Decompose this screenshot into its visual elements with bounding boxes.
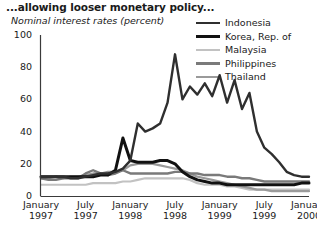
chart-figure: ...allowing looser monetary policy... No… [0, 0, 317, 239]
plot-area [0, 0, 317, 239]
series-line-indonesia [41, 54, 309, 178]
series-lines [41, 54, 309, 191]
